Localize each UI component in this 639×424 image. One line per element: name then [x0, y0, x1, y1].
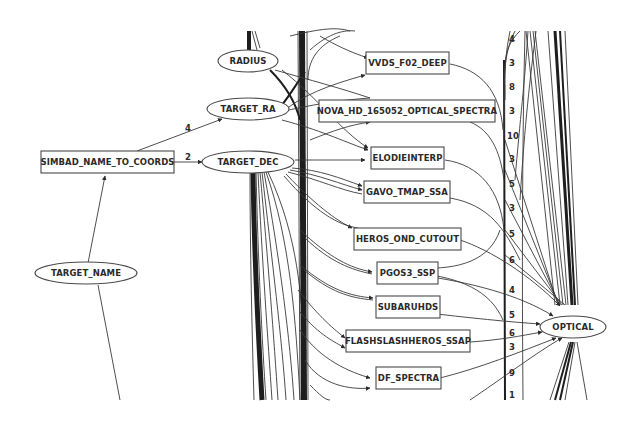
node-gavo-tmap-ssa[interactable]: GAVO_TMAP_SSA	[364, 181, 450, 203]
node-flashslashheros-ssap[interactable]: FLASHSLASHHEROS_SSAP	[345, 330, 471, 352]
node-df-label: DF_SPECTRA	[378, 373, 440, 383]
node-radius-label: RADIUS	[230, 56, 267, 66]
column-label: 3	[509, 106, 515, 116]
node-target-name[interactable]: TARGET_NAME	[35, 262, 137, 284]
column-label: 3	[509, 203, 515, 213]
node-flash-label: FLASHSLASHHEROS_SSAP	[345, 336, 471, 346]
edge-crossings-top	[270, 29, 370, 150]
edge-target-name-down	[98, 285, 120, 400]
node-vvds-label: VVDS_F02_DEEP	[368, 58, 447, 68]
node-optical[interactable]: OPTICAL	[540, 316, 606, 338]
node-elodie-label: ELODIEINTERP	[372, 153, 442, 163]
column-label: 5	[509, 229, 515, 239]
node-simbad-label: SIMBAD_NAME_TO_COORDS	[40, 157, 174, 167]
node-subaruhds[interactable]: SUBARUHDS	[376, 296, 440, 318]
column-label: 3	[509, 154, 515, 164]
column-labels: 4 3 8 3 10 3 5 3 5 6 4 5 6 3 9 1	[507, 34, 519, 400]
column-label: 10	[507, 131, 519, 141]
edge-label-simbad-dec: 2	[185, 152, 191, 162]
column-label: 6	[509, 255, 515, 265]
column-label: 5	[509, 179, 515, 189]
column-label: 3	[509, 342, 515, 352]
edge-fan-middle	[284, 160, 373, 400]
column-label: 1	[509, 390, 515, 400]
edge-label-simbad-ra: 4	[185, 123, 191, 133]
node-gavo-label: GAVO_TMAP_SSA	[366, 187, 448, 197]
node-pgos3-label: PGOS3_SSP	[380, 268, 436, 278]
node-df-spectra[interactable]: DF_SPECTRA	[376, 367, 441, 389]
edge-column-right	[504, 31, 578, 400]
column-label: 4	[509, 285, 515, 295]
column-label: 4	[509, 34, 515, 44]
edge-bundle-center	[298, 31, 308, 400]
node-simbad-name-to-coords[interactable]: SIMBAD_NAME_TO_COORDS	[40, 151, 174, 173]
edge-simbad-to-target-ra	[137, 119, 222, 151]
edge-flash-to-optical	[470, 332, 542, 342]
edge-target-name-to-simbad	[88, 176, 105, 263]
node-target-ra[interactable]: TARGET_RA	[207, 98, 289, 120]
column-label: 5	[509, 310, 515, 320]
column-label: 3	[509, 58, 515, 68]
node-heros-label: HEROS_OND_CUTOUT	[356, 234, 459, 244]
column-label: 8	[509, 82, 515, 92]
node-target-name-label: TARGET_NAME	[51, 268, 121, 278]
node-nova-label: NOVA_HD_165052_OPTICAL_SPECTRA	[317, 106, 498, 116]
column-label: 9	[509, 368, 515, 378]
node-pgos3-ssp[interactable]: PGOS3_SSP	[377, 262, 438, 284]
node-optical-label: OPTICAL	[552, 322, 594, 332]
node-target-ra-label: TARGET_RA	[220, 104, 275, 114]
node-target-dec-label: TARGET_DEC	[217, 157, 278, 167]
node-vvds-f02-deep[interactable]: VVDS_F02_DEEP	[366, 52, 449, 74]
workflow-graph: 4 2 4 3 8 3 10 3 5 3 5 6 4 5 6 3 9 1 RAD…	[0, 0, 639, 424]
node-heros-ond-cutout[interactable]: HEROS_OND_CUTOUT	[354, 228, 461, 250]
node-target-dec[interactable]: TARGET_DEC	[202, 151, 294, 173]
node-elodieinterp[interactable]: ELODIEINTERP	[371, 147, 444, 169]
nodes: RADIUS TARGET_RA TARGET_DEC SIMBAD_NAME_…	[35, 50, 606, 389]
edge-labels: 4 2	[185, 123, 191, 162]
edge-fan-bottom	[470, 338, 587, 400]
node-radius[interactable]: RADIUS	[218, 50, 278, 72]
column-label: 6	[509, 328, 515, 338]
node-nova-hd-165052[interactable]: NOVA_HD_165052_OPTICAL_SPECTRA	[317, 100, 498, 122]
node-subaru-label: SUBARUHDS	[378, 302, 439, 312]
